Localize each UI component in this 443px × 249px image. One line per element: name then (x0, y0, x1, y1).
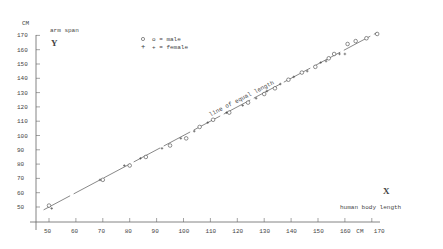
x-tick-label: 140 (286, 228, 297, 235)
y-tick-label: 60 (17, 190, 25, 197)
x-tick-label: 160 (340, 228, 351, 235)
male-point (168, 144, 172, 148)
legend-female: + = female (152, 44, 188, 51)
x-tick-label: 130 (259, 228, 270, 235)
x-tick-label: 50 (44, 228, 52, 235)
x-unit-label: CM (356, 228, 364, 235)
x-tick-label: 60 (71, 228, 79, 235)
male-point (332, 52, 336, 56)
male-point (354, 39, 358, 43)
male-point (198, 125, 202, 129)
y-tick-label: 110 (17, 118, 28, 125)
male-point (184, 137, 188, 141)
x-axis-title: human body length (340, 204, 401, 211)
male-point (375, 32, 379, 36)
male-point (365, 36, 369, 40)
x-tick-label: 80 (125, 228, 133, 235)
male-point (47, 204, 51, 208)
y-tick-label: 130 (17, 90, 28, 97)
y-tick-label: 120 (17, 104, 28, 111)
y-unit-label: CM (22, 20, 29, 27)
legend-plus-icon: + (141, 43, 145, 51)
male-point (262, 92, 266, 96)
y-tick-label: 100 (17, 133, 28, 140)
male-point (287, 78, 291, 82)
male-point (101, 178, 105, 182)
male-point (227, 111, 231, 115)
x-axis-letter: X (383, 186, 390, 196)
y-tick-label: 80 (17, 161, 25, 168)
legend-male: o = male (152, 36, 181, 43)
y-tick-label: 140 (17, 75, 28, 82)
male-point (346, 42, 350, 46)
male-point (273, 87, 277, 91)
x-tick-label: 90 (152, 228, 160, 235)
x-tick-label: 120 (232, 228, 243, 235)
x-tick-label: 70 (98, 228, 106, 235)
y-axis-title: arm span (50, 27, 79, 34)
y-axis-letter: Y (51, 38, 58, 48)
y-tick-label: 150 (17, 61, 28, 68)
male-point (246, 101, 250, 105)
male-point (128, 164, 132, 168)
y-tick-label: 170 (17, 32, 28, 39)
x-tick-label: 100 (179, 228, 190, 235)
male-point (300, 71, 304, 75)
y-tick-label: 70 (17, 175, 25, 182)
y-tick-label: 90 (17, 147, 25, 154)
y-tick-label: 50 (17, 204, 25, 211)
male-point (314, 65, 318, 69)
male-point (327, 56, 331, 60)
scatter-plot: 5060708090100110120130140150160170506070… (0, 0, 443, 249)
legend-circle-icon (141, 37, 144, 40)
x-tick-label: 110 (205, 228, 216, 235)
x-tick-label: 170 (374, 228, 385, 235)
male-point (144, 155, 148, 159)
male-point (211, 118, 215, 122)
x-tick-label: 150 (313, 228, 324, 235)
y-tick-label: 160 (17, 47, 28, 54)
